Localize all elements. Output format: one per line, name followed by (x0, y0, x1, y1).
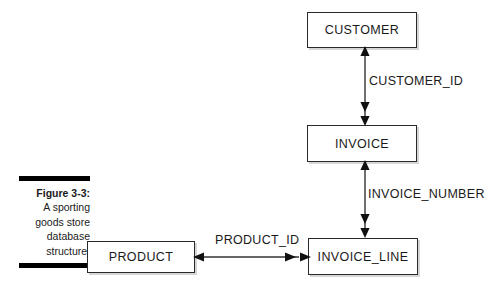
relationship-label-invoice-number: INVOICE_NUMBER (368, 187, 485, 201)
figure-caption: Figure 3-3: A sporting goods store datab… (8, 176, 90, 268)
caption-line-3: database (8, 229, 90, 243)
relationship-label-product-id: PRODUCT_ID (215, 233, 299, 247)
caption-line-4: structure. (8, 244, 90, 258)
figure-canvas: Figure 3-3: A sporting goods store datab… (0, 0, 489, 288)
entity-box-product[interactable]: PRODUCT (87, 241, 195, 273)
entity-label-invoice: INVOICE (335, 137, 389, 151)
caption-line-2: goods store (8, 215, 90, 229)
caption-text: Figure 3-3: A sporting goods store datab… (8, 186, 90, 258)
caption-line-1: A sporting (8, 200, 90, 214)
connector-product-invoice-line (193, 249, 311, 265)
entity-box-invoice-line[interactable]: INVOICE_LINE (308, 238, 418, 275)
entity-label-product: PRODUCT (109, 250, 174, 264)
entity-label-invoice-line: INVOICE_LINE (318, 250, 409, 264)
caption-rule-top (19, 176, 90, 181)
entity-label-customer: CUSTOMER (325, 23, 400, 37)
relationship-label-customer-id: CUSTOMER_ID (369, 74, 463, 88)
caption-title: Figure 3-3: (8, 186, 90, 200)
entity-box-invoice[interactable]: INVOICE (307, 125, 417, 162)
caption-rule-bottom (19, 263, 90, 268)
entity-box-customer[interactable]: CUSTOMER (307, 12, 417, 48)
